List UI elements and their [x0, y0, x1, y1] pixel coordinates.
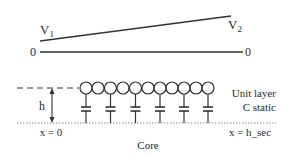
resistor-circle-icon [92, 82, 104, 94]
resistor-circle-icon [80, 82, 92, 94]
resistor-circle-icon [105, 82, 117, 94]
left-zero-label: 0 [30, 45, 36, 59]
resistor-circle-icon [166, 82, 178, 94]
core-label: Core [137, 139, 159, 151]
layer-circuit: h Unit layer C static x = 0 x = h_sec Co… [17, 82, 276, 151]
voltage-profile: V1 V2 0 0 [30, 16, 251, 59]
capacitor-icon [155, 94, 165, 123]
capacitor-array [81, 94, 213, 123]
resistor-circle-icon [154, 82, 166, 94]
v2-label: V2 [228, 17, 242, 34]
voltage-slope-line [40, 16, 231, 41]
height-label: h [39, 99, 45, 113]
v1-label: V1 [40, 22, 54, 39]
resistor-circle-icon [190, 82, 202, 94]
capacitor-icon [131, 94, 141, 123]
resistor-chain [80, 82, 214, 94]
capacitor-icon [81, 94, 91, 123]
resistor-circle-icon [202, 82, 214, 94]
resistor-circle-icon [178, 82, 190, 94]
right-zero-label: 0 [245, 45, 251, 59]
capacitor-icon [179, 94, 189, 123]
capacitor-icon [203, 94, 213, 123]
capacitor-icon [106, 94, 116, 123]
height-arrow-icon [50, 88, 55, 123]
layer-name-line1: Unit layer [232, 87, 277, 99]
resistor-circle-icon [142, 82, 154, 94]
diagram-canvas: V1 V2 0 0 [0, 0, 295, 156]
x-zero-label: x = 0 [40, 126, 63, 138]
resistor-circle-icon [117, 82, 129, 94]
resistor-circle-icon [130, 82, 142, 94]
x-hsec-label: x = h_sec [229, 126, 271, 138]
layer-name-line2: C static [243, 101, 276, 113]
